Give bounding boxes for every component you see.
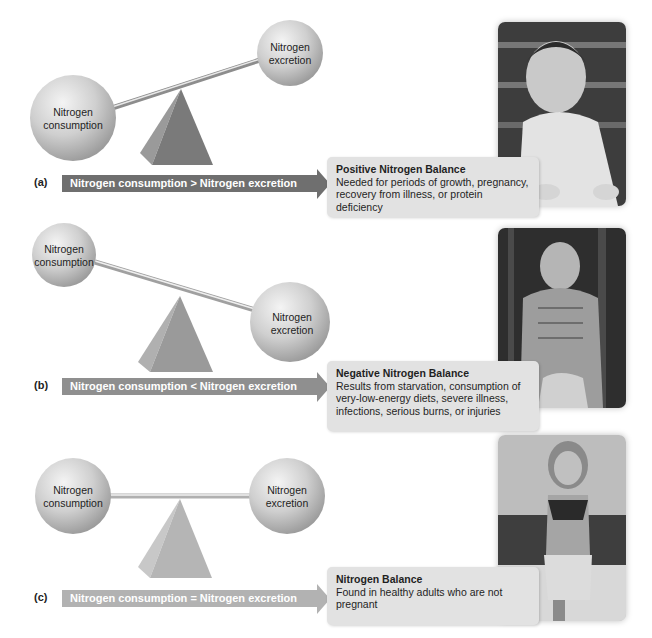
balance-title: Positive Nitrogen Balance [336,163,530,176]
fulcrum-pyramid-b [138,296,213,372]
balance-title: Nitrogen Balance [336,573,530,586]
relation-arrow: Nitrogen consumption > Nitrogen excretio… [62,175,317,192]
balance-info-box: Nitrogen Balance Found in healthy adults… [327,567,539,625]
panel-a-positive-balance: Nitrogenconsumption Nitrogenexcretion (a… [0,0,652,220]
relation-arrow: Nitrogen consumption = Nitrogen excretio… [62,590,317,607]
excretion-sphere-label: Nitrogenexcretion [266,484,309,509]
consumption-sphere-label: Nitrogenconsumption [43,106,103,131]
fulcrum-pyramid-c [138,499,212,578]
balance-title: Negative Nitrogen Balance [336,367,530,380]
panel-letter: (c) [34,591,47,603]
relation-arrow: Nitrogen consumption < Nitrogen excretio… [62,378,317,395]
seesaw-a [0,0,340,175]
panel-b-negative-balance: Nitrogenconsumption Nitrogenexcretion (b… [0,210,652,425]
seesaw-c [0,425,340,600]
seesaw-b [0,210,340,385]
excretion-sphere-label: Nitrogenexcretion [271,311,314,336]
panel-letter: (b) [34,379,48,391]
panel-c-nitrogen-balance: Nitrogenconsumption Nitrogenexcretion (c… [0,425,652,638]
balance-info-box: Positive Nitrogen Balance Needed for per… [327,157,539,217]
fulcrum-pyramid-a [140,89,213,165]
panel-letter: (a) [34,176,47,188]
balance-info-box: Negative Nitrogen Balance Results from s… [327,361,539,431]
excretion-sphere-label: Nitrogenexcretion [269,41,312,66]
consumption-sphere-label: Nitrogenconsumption [43,484,103,509]
consumption-sphere-label: Nitrogenconsumption [34,243,94,268]
